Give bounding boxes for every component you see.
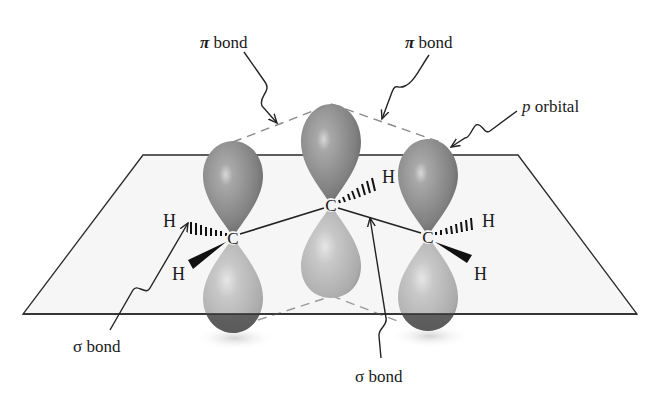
hydrogen-atom: H	[482, 211, 495, 231]
hydrogen-atom: H	[382, 167, 395, 187]
svg-text:C: C	[422, 228, 433, 247]
pi-bond-right-label: π bond	[405, 33, 453, 52]
sigma-bond-bottom-label: σ bond	[355, 367, 403, 386]
carbon-atom-c2: C	[324, 196, 338, 215]
p-orbital-label: p orbital	[521, 97, 579, 116]
carbon-atom-c3: C	[421, 228, 435, 247]
sigma-bond-left-label: σ bond	[73, 337, 121, 356]
hydrogen-atom: H	[474, 264, 487, 284]
hydrogen-atom: H	[172, 264, 185, 284]
svg-text:C: C	[227, 229, 238, 248]
hydrogen-atom: H	[163, 211, 176, 231]
pi-bond-left-label: π bond	[200, 33, 248, 52]
p-orbital-leader-arrow	[451, 111, 517, 147]
diagram-canvas: C C C H H H H H π bond π bond p orbital …	[0, 0, 659, 407]
pi-bond-left-leader-arrow	[244, 52, 277, 123]
svg-text:C: C	[325, 196, 336, 215]
pi-bond-right-leader-arrow	[382, 55, 429, 119]
allyl-orbital-diagram: C C C H H H H H π bond π bond p orbital …	[0, 0, 659, 407]
carbon-atom-c1: C	[226, 229, 240, 248]
